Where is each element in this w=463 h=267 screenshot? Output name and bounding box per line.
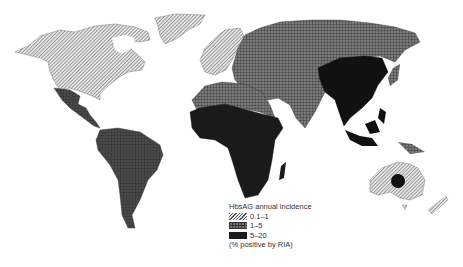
legend-title: HbsAG annual incidence — [229, 202, 312, 212]
legend-note: (% positive by RIA) — [229, 240, 312, 250]
australia-high-spot — [391, 174, 405, 188]
hatch-swatch-icon — [229, 213, 247, 220]
region-tasmania — [402, 205, 407, 210]
region-japan — [388, 64, 400, 86]
legend-item-low: 0.1–1 — [229, 212, 312, 222]
map-legend: HbsAG annual incidence 0.1–1 1–5 5–20 (%… — [229, 202, 312, 250]
region-sub-saharan-africa — [190, 104, 283, 198]
legend-item-high: 5–20 — [229, 231, 312, 241]
region-new-guinea — [398, 142, 425, 154]
legend-item-mid: 1–5 — [229, 221, 312, 231]
region-south-america — [96, 128, 163, 228]
solid-swatch-icon — [229, 232, 247, 239]
region-china-se-asia — [318, 56, 388, 126]
region-greenland — [155, 14, 205, 44]
region-new-zealand — [428, 196, 448, 214]
region-north-america — [15, 24, 150, 100]
grid-swatch-icon — [229, 222, 247, 229]
region-madagascar — [279, 162, 286, 180]
